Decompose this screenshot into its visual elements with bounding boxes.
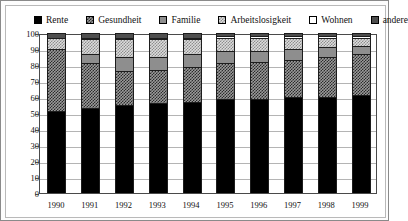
bar-1993 <box>149 33 168 193</box>
bar-segment-familie <box>115 57 134 71</box>
bar-segment-arbeitslosigkeit <box>183 39 202 53</box>
legend-item-gesundheit: Gesundheit <box>86 16 141 25</box>
x-tick-label: 1994 <box>174 201 208 210</box>
x-tick-label: 1996 <box>242 201 276 210</box>
legend-swatch-icon <box>371 16 379 24</box>
bar-segment-gesundheit <box>81 63 100 108</box>
bar-segment-rente <box>115 105 134 193</box>
bar-segment-rente <box>216 99 235 193</box>
bar-segment-gesundheit <box>183 67 202 102</box>
legend-item-familie: Familie <box>159 16 200 25</box>
bar-segment-arbeitslosigkeit <box>250 38 269 51</box>
x-tick-label: 1990 <box>39 201 73 210</box>
bar-segment-gesundheit <box>352 54 371 96</box>
plot-area <box>39 34 377 194</box>
legend-label: Gesundheit <box>98 16 141 25</box>
x-tick-label: 1999 <box>343 201 377 210</box>
legend-label: andere <box>383 16 408 25</box>
legend-swatch-icon <box>159 16 167 24</box>
legend-label: Familie <box>171 16 200 25</box>
x-axis: 1990199119921993199419951996199719981999 <box>39 196 377 216</box>
bar-segment-arbeitslosigkeit <box>47 38 66 49</box>
legend-label: Rente <box>46 16 68 25</box>
bar-segment-familie <box>352 46 371 54</box>
bar-segment-rente <box>250 99 269 193</box>
bar-1999 <box>352 33 371 193</box>
bar-segment-gesundheit <box>250 62 269 99</box>
x-tick-label: 1997 <box>276 201 310 210</box>
x-tick-label: 1991 <box>73 201 107 210</box>
bar-segment-arbeitslosigkeit <box>318 38 337 48</box>
legend-item-arbeitslosigkeit: Arbeitslosigkeit <box>218 16 291 25</box>
bar-segment-rente <box>318 97 337 193</box>
x-tick-label: 1992 <box>107 201 141 210</box>
bar-1996 <box>250 33 269 193</box>
bar-1995 <box>216 33 235 193</box>
legend-item-rente: Rente <box>34 16 68 25</box>
bar-segment-gesundheit <box>284 60 303 97</box>
bar-segment-rente <box>47 111 66 193</box>
bar-segment-gesundheit <box>115 71 134 105</box>
bar-segment-gesundheit <box>216 63 235 98</box>
chart-legend: RenteGesundheitFamilieArbeitslosigkeitWo… <box>34 13 386 27</box>
bar-segment-gesundheit <box>149 70 168 104</box>
legend-swatch-icon <box>86 16 94 24</box>
bar-1997 <box>284 33 303 193</box>
bar-1998 <box>318 33 337 193</box>
bar-segment-arbeitslosigkeit <box>115 39 134 57</box>
bar-segment-gesundheit <box>47 49 66 111</box>
bar-segment-arbeitslosigkeit <box>149 39 168 57</box>
legend-swatch-icon <box>218 16 226 24</box>
bar-segment-arbeitslosigkeit <box>216 38 235 51</box>
bar-1994 <box>183 33 202 193</box>
x-tick-label: 1993 <box>140 201 174 210</box>
x-tick-label: 1995 <box>208 201 242 210</box>
bar-segment-arbeitslosigkeit <box>81 39 100 53</box>
y-tick-mark <box>35 194 39 195</box>
legend-swatch-icon <box>34 16 42 24</box>
bar-segment-rente <box>81 108 100 193</box>
bar-segment-familie <box>149 57 168 70</box>
bar-segment-rente <box>352 95 371 193</box>
legend-item-andere: andere <box>371 16 408 25</box>
bar-1990 <box>47 33 66 193</box>
bar-segment-familie <box>250 51 269 62</box>
legend-swatch-icon <box>309 16 317 24</box>
bar-segment-familie <box>216 51 235 64</box>
bar-segment-rente <box>183 102 202 193</box>
bar-segment-rente <box>149 103 168 193</box>
bar-segment-arbeitslosigkeit <box>352 38 371 46</box>
bar-segment-familie <box>284 49 303 60</box>
legend-label: Arbeitslosigkeit <box>230 16 291 25</box>
legend-item-wohnen: Wohnen <box>309 16 352 25</box>
chart-inner-border: RenteGesundheitFamilieArbeitslosigkeitWo… <box>5 5 386 218</box>
y-axis: 1009080706050403020100 <box>11 34 39 194</box>
bar-segment-arbeitslosigkeit <box>284 38 303 49</box>
legend-label: Wohnen <box>321 16 352 25</box>
bar-segment-familie <box>183 54 202 67</box>
bar-segment-familie <box>81 54 100 64</box>
bar-1991 <box>81 33 100 193</box>
bar-segment-rente <box>284 97 303 193</box>
bar-segment-familie <box>318 47 337 57</box>
x-tick-label: 1998 <box>309 201 343 210</box>
bar-segment-gesundheit <box>318 57 337 97</box>
bar-1992 <box>115 33 134 193</box>
